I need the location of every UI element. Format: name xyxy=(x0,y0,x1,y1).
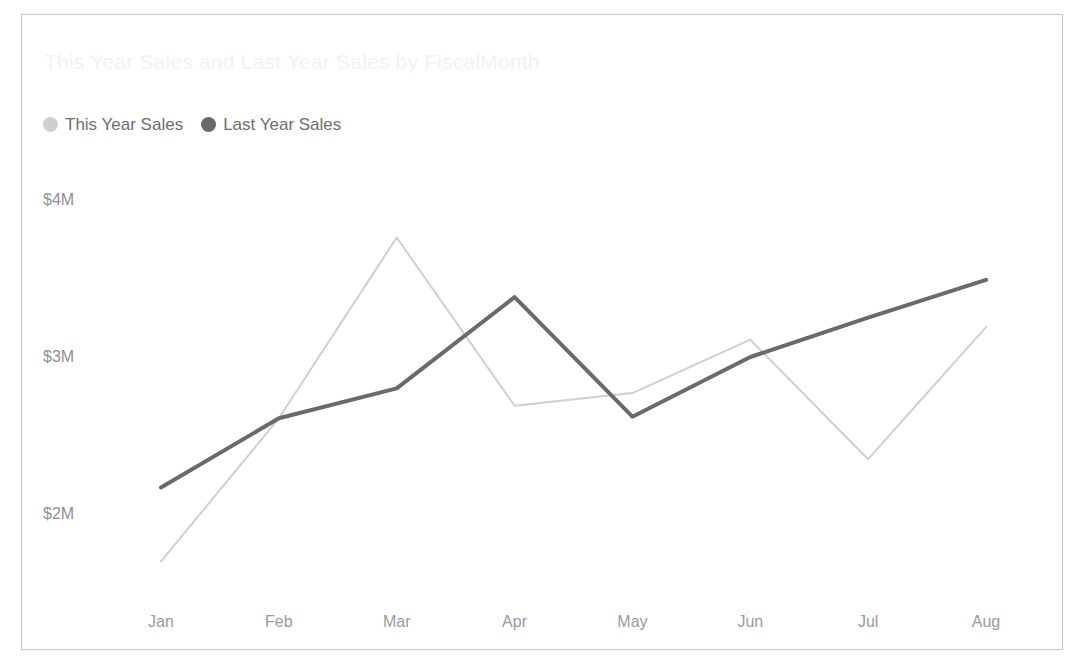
y-axis-tick-label: $2M xyxy=(43,505,74,523)
y-axis-tick-label: $4M xyxy=(43,191,74,209)
x-axis-tick-label: May xyxy=(617,613,647,631)
series-line-last-year-sales[interactable] xyxy=(161,280,986,488)
x-axis-tick-label: Jan xyxy=(148,613,174,631)
plot-area: $2M$3M$4MJanFebMarAprMayJunJulAug xyxy=(22,15,1063,650)
x-axis-tick-label: Apr xyxy=(502,613,527,631)
y-axis-tick-label: $3M xyxy=(43,348,74,366)
x-axis-tick-label: Jul xyxy=(858,613,878,631)
chart-card: This Year Sales and Last Year Sales by F… xyxy=(21,14,1063,650)
series-line-this-year-sales[interactable] xyxy=(161,238,986,562)
line-chart-svg xyxy=(22,15,1063,650)
x-axis-tick-label: Feb xyxy=(265,613,293,631)
x-axis-tick-label: Mar xyxy=(383,613,411,631)
x-axis-tick-label: Jun xyxy=(737,613,763,631)
x-axis-tick-label: Aug xyxy=(972,613,1000,631)
